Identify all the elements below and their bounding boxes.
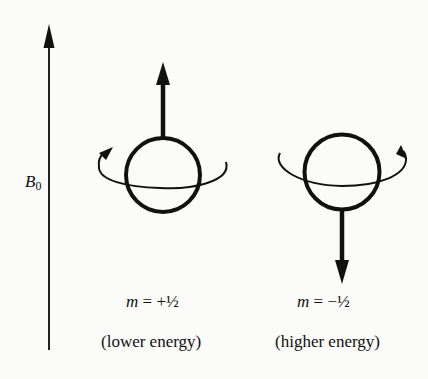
spin-down-nucleus [279, 135, 407, 285]
variable: m [297, 292, 309, 311]
spin-up-quantum-number: m = +½ [126, 292, 179, 312]
spin-value: +½ [156, 292, 178, 311]
field-arrow [44, 24, 55, 350]
spin-down-energy-label: (higher energy) [275, 332, 380, 352]
field-subscript: 0 [35, 179, 41, 193]
field-label: B0 [25, 172, 41, 194]
spin-up-energy-label: (lower energy) [101, 332, 201, 352]
equals-sign: = [143, 292, 153, 311]
spin-up-nucleus [99, 62, 227, 212]
field-symbol: B [25, 172, 35, 191]
spin-value: −½ [327, 292, 349, 311]
spin-diagram [0, 0, 428, 379]
spin-down-quantum-number: m = −½ [297, 292, 350, 312]
variable: m [126, 292, 138, 311]
equals-sign: = [314, 292, 324, 311]
